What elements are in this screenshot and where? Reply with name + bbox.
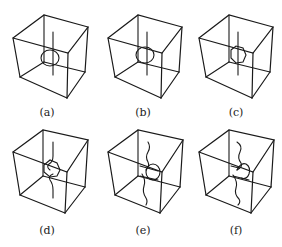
- panel-f: (f): [189, 120, 282, 243]
- vortex-line-and-ring: [136, 32, 154, 75]
- cube-diagram-d: [0, 120, 94, 226]
- cube-diagram-a: [0, 0, 94, 106]
- cube-wireframe: [199, 130, 274, 213]
- panel-d: (d): [0, 120, 94, 243]
- cube-wireframe: [13, 130, 88, 213]
- panel-e: (e): [96, 120, 190, 243]
- vortex-wavy-line-and-open-ring: [231, 142, 250, 205]
- cube-diagram-e: [96, 120, 190, 226]
- vortex-wavy-line-and-ring: [140, 142, 160, 205]
- panel-a: (a): [0, 0, 94, 123]
- cube-diagram-f: [189, 120, 282, 226]
- vortex-line-and-faceted-ring: [231, 32, 246, 75]
- panel-label: (d): [0, 225, 94, 237]
- vortex-bent-line-and-ring: [44, 142, 60, 198]
- cube-diagram-c: [189, 0, 282, 106]
- cube-diagram-b: [96, 0, 190, 106]
- panel-label: (e): [96, 225, 190, 237]
- panel-label: (b): [96, 107, 190, 119]
- cube-wireframe: [199, 15, 273, 98]
- panel-b: (b): [96, 0, 190, 123]
- panel-label: (c): [189, 107, 282, 119]
- panel-label: (a): [0, 107, 94, 119]
- panel-label: (f): [189, 225, 282, 237]
- cube-wireframe: [108, 15, 182, 98]
- cube-wireframe: [13, 15, 88, 98]
- panel-c: (c): [189, 0, 282, 123]
